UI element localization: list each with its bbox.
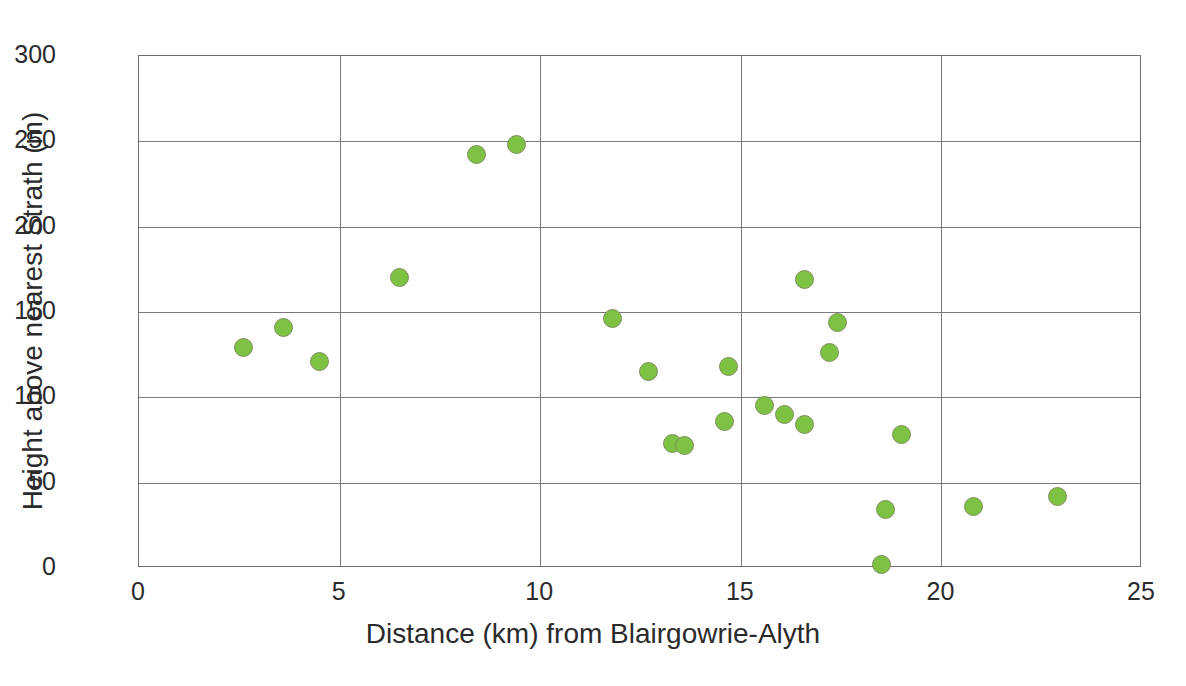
gridline-vertical: [340, 56, 341, 566]
data-point: [828, 313, 847, 332]
plot-area: [138, 55, 1141, 567]
x-axis-tick-label: 20: [900, 579, 980, 604]
data-point: [719, 357, 738, 376]
x-axis-tick-label: 10: [499, 579, 579, 604]
chart-page: Height above nearest Strath (m) Distance…: [0, 0, 1186, 686]
data-point: [795, 270, 814, 289]
data-point: [892, 425, 911, 444]
data-point: [310, 352, 329, 371]
data-point: [795, 415, 814, 434]
data-point: [467, 145, 486, 164]
y-axis-tick-label: 250: [0, 127, 56, 152]
x-axis-tick-label: 5: [299, 579, 379, 604]
x-axis-title: Distance (km) from Blairgowrie-Alyth: [0, 618, 1186, 650]
data-point: [775, 405, 794, 424]
y-axis-tick-label: 50: [0, 469, 56, 494]
data-point: [820, 343, 839, 362]
gridline-horizontal: [139, 227, 1140, 228]
gridline-vertical: [741, 56, 742, 566]
y-axis-tick-label: 150: [0, 298, 56, 323]
data-point: [715, 412, 734, 431]
gridline-vertical: [540, 56, 541, 566]
data-point: [234, 338, 253, 357]
y-axis-tick-label: 0: [0, 554, 56, 579]
data-point: [872, 555, 891, 574]
gridline-horizontal: [139, 397, 1140, 398]
y-axis-tick-label: 200: [0, 213, 56, 238]
data-point: [390, 268, 409, 287]
x-axis-tick-label: 25: [1101, 579, 1181, 604]
data-point: [1048, 487, 1067, 506]
data-point: [639, 362, 658, 381]
x-axis-tick-label: 15: [700, 579, 780, 604]
data-point: [964, 497, 983, 516]
data-point: [755, 396, 774, 415]
data-point: [675, 436, 694, 455]
data-point: [507, 135, 526, 154]
x-axis-tick-label: 0: [98, 579, 178, 604]
gridline-horizontal: [139, 312, 1140, 313]
gridline-vertical: [941, 56, 942, 566]
gridline-horizontal: [139, 141, 1140, 142]
y-axis-tick-label: 100: [0, 383, 56, 408]
data-point: [876, 500, 895, 519]
page-footer-strip: [0, 672, 1186, 686]
data-point: [274, 318, 293, 337]
y-axis-tick-label: 300: [0, 42, 56, 67]
gridline-horizontal: [139, 483, 1140, 484]
data-point: [603, 309, 622, 328]
